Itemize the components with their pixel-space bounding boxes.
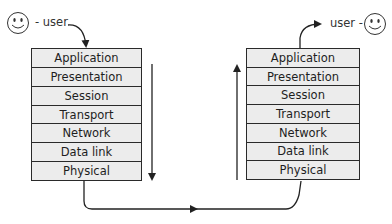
user-exit-arrow — [300, 24, 320, 48]
physical-link-arrow — [84, 181, 196, 209]
layer-presentation: Presentation — [32, 68, 141, 87]
physical-link-line — [190, 181, 301, 209]
receiver-osi-stack: Application Presentation Session Transpo… — [246, 48, 360, 180]
layer-session: Session — [32, 87, 141, 106]
receiver-user-label: user - — [330, 16, 363, 30]
layer-data-link: Data link — [32, 143, 141, 162]
smiley-face-icon — [8, 13, 29, 34]
layer-presentation: Presentation — [247, 68, 359, 87]
layer-application: Application — [32, 49, 141, 68]
layer-network: Network — [247, 124, 359, 143]
smiley-face-icon — [365, 14, 386, 35]
user-entry-arrow — [68, 25, 86, 46]
sender-osi-stack: Application Presentation Session Transpo… — [31, 48, 142, 181]
layer-physical: Physical — [32, 162, 141, 180]
layer-transport: Transport — [247, 105, 359, 124]
layer-physical: Physical — [247, 161, 359, 179]
layer-session: Session — [247, 86, 359, 105]
layer-network: Network — [32, 124, 141, 143]
layer-transport: Transport — [32, 106, 141, 125]
layer-data-link: Data link — [247, 143, 359, 162]
layer-application: Application — [247, 49, 359, 68]
sender-user-label: - user — [35, 15, 68, 29]
